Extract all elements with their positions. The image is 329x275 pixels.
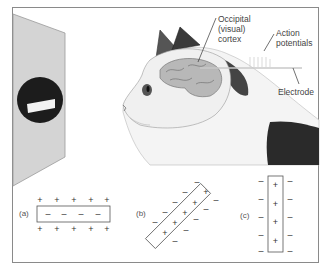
svg-text:+: + xyxy=(54,195,59,205)
svg-text:–: – xyxy=(287,176,292,186)
svg-text:+: + xyxy=(273,199,278,209)
panel-a-label: (a) xyxy=(19,209,29,218)
svg-text:+: + xyxy=(88,224,93,234)
panel-b-label: (b) xyxy=(136,209,146,218)
svg-text:–: – xyxy=(258,246,263,256)
label-line: cortex xyxy=(218,34,251,44)
svg-text:–: – xyxy=(78,209,83,219)
svg-text:–: – xyxy=(172,197,177,207)
svg-text:+: + xyxy=(104,224,109,234)
label-line: (visual) xyxy=(218,24,251,34)
label-line: Action xyxy=(276,28,312,38)
svg-text:+: + xyxy=(192,198,197,208)
svg-text:–: – xyxy=(203,204,208,214)
label-line: potentials xyxy=(276,38,312,48)
occipital-cortex-label: Occipital (visual) cortex xyxy=(218,14,251,44)
action-potentials-icon xyxy=(250,57,270,67)
svg-text:+: + xyxy=(273,180,278,190)
svg-text:–: – xyxy=(287,246,292,256)
svg-text:–: – xyxy=(258,230,263,240)
svg-text:+: + xyxy=(88,195,93,205)
receptive-field-a: +++++ +++++ –––– xyxy=(37,195,110,234)
svg-text:+: + xyxy=(182,208,187,218)
svg-text:–: – xyxy=(258,212,263,222)
svg-text:+: + xyxy=(273,217,278,227)
svg-text:+: + xyxy=(71,224,76,234)
svg-text:–: – xyxy=(182,187,187,197)
svg-text:+: + xyxy=(273,236,278,246)
svg-text:–: – xyxy=(183,225,188,235)
electrode-label: Electrode xyxy=(278,87,314,97)
action-potentials-label: Action potentials xyxy=(276,28,312,48)
svg-text:–: – xyxy=(258,176,263,186)
svg-text:–: – xyxy=(172,236,177,246)
svg-text:–: – xyxy=(287,194,292,204)
svg-text:+: + xyxy=(203,187,208,197)
svg-text:+: + xyxy=(37,195,42,205)
svg-text:+: + xyxy=(54,224,59,234)
svg-text:+: + xyxy=(71,195,76,205)
svg-text:–: – xyxy=(152,217,157,227)
svg-text:–: – xyxy=(193,214,198,224)
svg-text:–: – xyxy=(287,212,292,222)
svg-text:+: + xyxy=(162,228,167,238)
stimulus-icon xyxy=(17,77,63,123)
svg-text:–: – xyxy=(287,230,292,240)
panel-c-label: (c) xyxy=(240,211,249,220)
svg-text:–: – xyxy=(95,209,100,219)
projection-screen xyxy=(13,14,65,186)
svg-text:+: + xyxy=(37,224,42,234)
svg-text:–: – xyxy=(61,209,66,219)
label-line: Occipital xyxy=(218,14,251,24)
svg-text:–: – xyxy=(45,209,50,219)
svg-text:–: – xyxy=(213,195,218,205)
receptive-field-b: +++++ ––––– ––––– xyxy=(145,177,218,249)
svg-text:–: – xyxy=(258,194,263,204)
svg-text:+: + xyxy=(172,218,177,228)
svg-text:–: – xyxy=(194,177,199,187)
receptive-field-c: ++++ ––––– ––––– xyxy=(258,176,292,256)
svg-text:–: – xyxy=(162,207,167,217)
svg-text:+: + xyxy=(104,195,109,205)
